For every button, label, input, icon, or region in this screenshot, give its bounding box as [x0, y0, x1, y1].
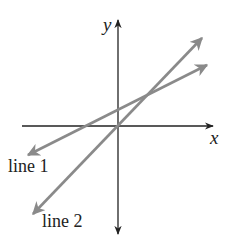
- coordinate-plane: y x line 1 line 2: [0, 0, 238, 237]
- y-axis-label: y: [101, 14, 112, 35]
- line-1-label: line 1: [8, 156, 49, 176]
- line-2-label: line 2: [42, 211, 83, 231]
- x-axis-label: x: [209, 127, 219, 148]
